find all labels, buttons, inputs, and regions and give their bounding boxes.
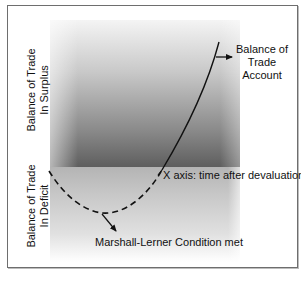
j-curve-dashed-segment — [49, 170, 162, 213]
ml-arrow — [102, 214, 116, 231]
x-axis-label: X axis: time after devaluation — [163, 169, 301, 182]
marshall-lerner-label: Marshall-Lerner Condition met — [95, 236, 243, 249]
balance-of-trade-account-label: Balance of Trade Account — [234, 43, 290, 82]
j-curve-solid-segment — [162, 42, 219, 170]
